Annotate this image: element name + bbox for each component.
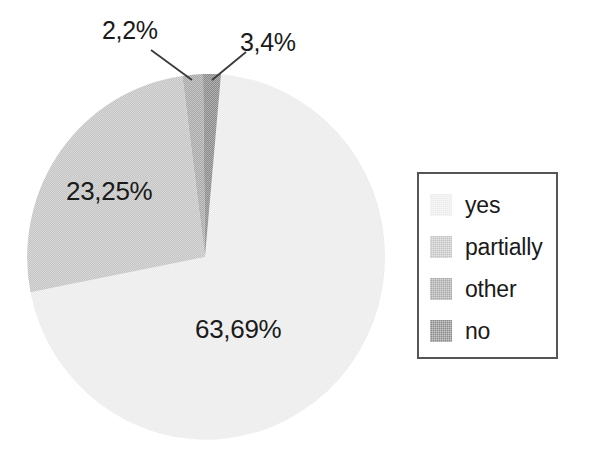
pie-label-no: 3,4% — [240, 30, 296, 55]
pie-chart-figure: 2,2% 3,4% 23,25% 63,69% yes partially ot… — [0, 0, 589, 469]
pie-halftone-overlay — [26, 74, 384, 440]
pie-label-partially: 23,25% — [66, 178, 152, 204]
legend-swatch-yes — [430, 194, 452, 216]
leader-line-other — [151, 50, 192, 80]
chart-legend: yes partially other no — [417, 172, 558, 359]
legend-label-partially: partially — [465, 236, 542, 259]
legend-item-yes[interactable]: yes — [419, 184, 556, 226]
pie-label-other: 2,2% — [102, 18, 158, 43]
legend-item-other[interactable]: other — [419, 268, 556, 310]
legend-swatch-partially — [430, 236, 452, 258]
legend-item-partially[interactable]: partially — [419, 226, 556, 268]
legend-label-no: no — [465, 320, 490, 343]
legend-swatch-no — [430, 320, 452, 342]
legend-label-yes: yes — [465, 194, 500, 217]
legend-label-other: other — [465, 278, 516, 301]
legend-item-no[interactable]: no — [419, 310, 556, 352]
legend-swatch-other — [430, 278, 452, 300]
pie-label-yes: 63,69% — [195, 316, 281, 342]
